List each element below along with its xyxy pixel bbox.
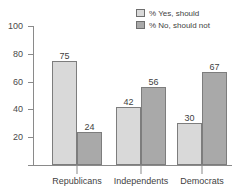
bar-value-republicans-yes: 75	[59, 51, 69, 61]
bar-value-republicans-no: 24	[84, 122, 94, 132]
bar-democrats-yes: 30	[177, 123, 202, 165]
bar-independents-no: 56	[141, 87, 166, 165]
legend-label-yes: % Yes, should	[149, 9, 199, 18]
legend-item-yes: % Yes, should	[136, 8, 210, 18]
y-tick-20	[28, 137, 33, 138]
bar-republicans-no: 24	[77, 132, 102, 165]
y-tick-60	[28, 82, 33, 83]
bar-value-democrats-yes: 30	[184, 113, 194, 123]
x-tick-republicans	[77, 165, 78, 174]
legend-swatch-yes	[136, 9, 145, 17]
y-tick-100	[28, 26, 33, 27]
y-axis-label-40: 40	[13, 105, 23, 114]
bar-chart: % Yes, should % No, should not 100 80 60…	[0, 0, 238, 195]
bar-democrats-no: 67	[202, 72, 227, 165]
x-axis-label-democrats: Democrats	[180, 176, 224, 186]
y-axis-label-80: 80	[13, 49, 23, 58]
x-tick-independents	[141, 165, 142, 174]
y-tick-80	[28, 54, 33, 55]
y-axis-label-20: 20	[13, 133, 23, 142]
y-tick-40	[28, 109, 33, 110]
bar-value-democrats-no: 67	[209, 62, 219, 72]
y-axis-label-100: 100	[8, 22, 23, 31]
y-axis-label-60: 60	[13, 77, 23, 86]
x-axis-label-republicans: Republicans	[52, 176, 102, 186]
x-axis-label-independents: Independents	[114, 176, 169, 186]
y-axis-line	[33, 26, 34, 165]
bar-value-independents-yes: 42	[123, 97, 133, 107]
bar-independents-yes: 42	[116, 107, 141, 165]
bar-republicans-yes: 75	[52, 61, 77, 165]
x-tick-democrats	[202, 165, 203, 174]
plot-area: 100 80 60 40 20 75 24 42 56	[33, 26, 231, 165]
bar-value-independents-no: 56	[148, 77, 158, 87]
